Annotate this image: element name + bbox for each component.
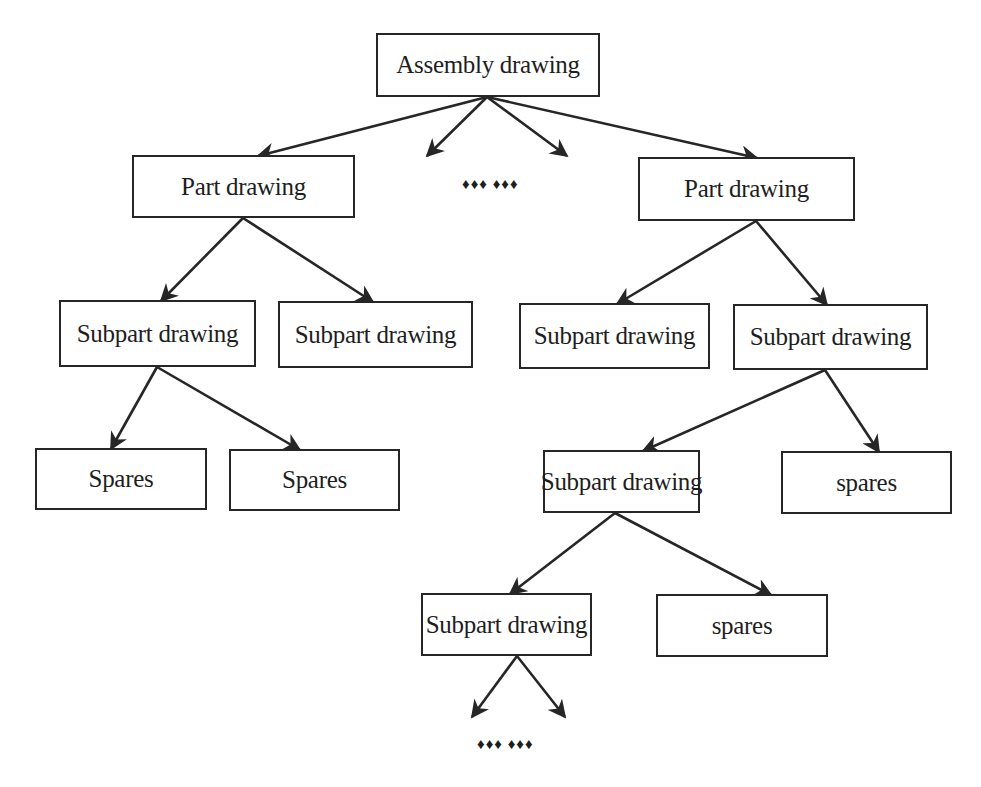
node-subpart-drawing-r4: Subpart drawing xyxy=(421,593,592,656)
node-part-drawing-left: Part drawing xyxy=(132,155,355,218)
arrow-subpart-r2-to-spares-r2 xyxy=(825,370,879,452)
node-part-drawing-right: Part drawing xyxy=(638,157,855,221)
node-subpart-drawing-r2: Subpart drawing xyxy=(733,304,928,370)
arrow-part-right-to-subpart-r2 xyxy=(756,221,827,305)
node-subpart-drawing-r3: Subpart drawing xyxy=(543,450,700,513)
edges-layer xyxy=(0,0,981,787)
arrow-part-right-to-subpart-r1 xyxy=(617,221,756,304)
node-spares-l1: Spares xyxy=(35,448,207,510)
arrow-subpart-r3-to-subpart-r4 xyxy=(510,513,615,594)
arrow-subpart-r2-to-subpart-r3 xyxy=(643,370,825,451)
ellipsis-bottom: ♦♦♦ ♦♦♦ xyxy=(477,736,534,753)
arrow-part-left-to-subpart-l2 xyxy=(243,218,373,302)
arrow-root-to-part-left xyxy=(258,97,487,156)
node-subpart-drawing-l2: Subpart drawing xyxy=(278,301,473,368)
node-assembly-drawing: Assembly drawing xyxy=(376,33,600,97)
arrow-subpart-l1-to-spares-l1 xyxy=(111,367,157,449)
ellipsis-top: ♦♦♦ ♦♦♦ xyxy=(462,176,519,193)
arrow-part-left-to-subpart-l1 xyxy=(161,218,243,301)
arrow-subpart-r4-to-ellipsis-left xyxy=(472,656,517,717)
node-subpart-drawing-r1: Subpart drawing xyxy=(519,303,710,369)
node-spares-l2: Spares xyxy=(229,449,400,511)
drawing-hierarchy-diagram: Assembly drawing Part drawing ♦♦♦ ♦♦♦ Pa… xyxy=(0,0,981,787)
arrow-subpart-r4-to-ellipsis-right xyxy=(517,656,565,717)
arrow-subpart-l1-to-spares-l2 xyxy=(157,367,300,450)
arrow-subpart-r3-to-spares-r3 xyxy=(615,513,771,595)
node-spares-r2: spares xyxy=(781,451,952,514)
node-spares-r3: spares xyxy=(656,594,828,657)
node-subpart-drawing-l1: Subpart drawing xyxy=(59,300,256,367)
